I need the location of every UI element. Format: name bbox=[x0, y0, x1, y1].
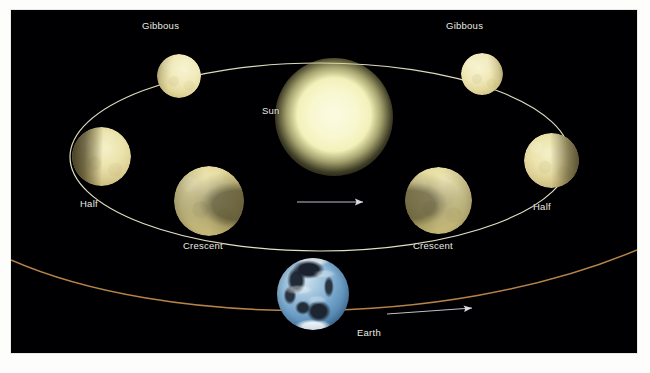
phase-terminator bbox=[174, 166, 244, 236]
venus-phase-crescent-left bbox=[174, 166, 244, 236]
illustration-plate: Gibbous Gibbous Half Half Crescent Cresc… bbox=[11, 10, 637, 353]
earth-body bbox=[277, 258, 349, 330]
venus-orbit-near-arc bbox=[70, 157, 570, 251]
venus-phase-half-left bbox=[72, 127, 131, 186]
venus-phase-crescent-right bbox=[405, 167, 472, 234]
earth-limb-shading bbox=[277, 258, 349, 330]
phase-terminator bbox=[524, 133, 579, 188]
venus-phase-half-right bbox=[524, 133, 579, 188]
phase-terminator bbox=[72, 127, 131, 186]
diagram-stage: Gibbous Gibbous Half Half Crescent Cresc… bbox=[0, 0, 650, 373]
venus-orbit-direction-arrow bbox=[297, 199, 363, 206]
phase-terminator bbox=[405, 167, 472, 234]
